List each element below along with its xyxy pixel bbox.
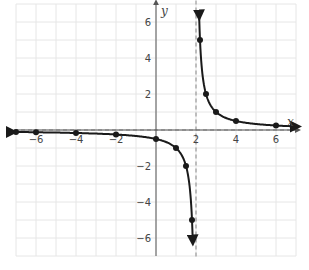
data-point bbox=[233, 118, 239, 124]
rational-function-graph: −6−4−2246642−2−4−6 x y bbox=[0, 0, 309, 270]
data-point bbox=[203, 91, 209, 97]
x-tick-label: 2 bbox=[193, 134, 199, 145]
x-tick-label: −6 bbox=[29, 134, 44, 145]
data-point bbox=[73, 130, 79, 136]
y-tick-label: −6 bbox=[136, 233, 151, 244]
data-point bbox=[153, 136, 159, 142]
data-point bbox=[183, 163, 189, 169]
data-point bbox=[197, 37, 203, 43]
y-tick-label: −2 bbox=[136, 161, 151, 172]
y-axis-label: y bbox=[160, 4, 168, 18]
x-tick-label: 4 bbox=[233, 134, 239, 145]
curve-left-branch bbox=[14, 132, 193, 243]
data-point bbox=[189, 217, 195, 223]
y-tick-label: 4 bbox=[145, 53, 151, 64]
data-point bbox=[273, 123, 279, 129]
data-point bbox=[33, 129, 39, 135]
data-point bbox=[213, 109, 219, 115]
y-tick-label: −4 bbox=[136, 197, 151, 208]
y-tick-label: 2 bbox=[145, 89, 151, 100]
x-tick-label: 6 bbox=[273, 134, 279, 145]
y-tick-label: 6 bbox=[145, 17, 151, 28]
data-point bbox=[13, 129, 19, 135]
x-axis-label: x bbox=[287, 115, 294, 129]
data-point bbox=[173, 145, 179, 151]
data-point bbox=[113, 132, 119, 138]
